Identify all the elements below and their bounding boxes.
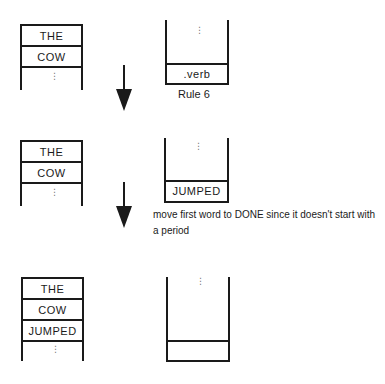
ellipsis-marker: ⋮ xyxy=(50,74,52,79)
step-note: move first word to DONE since it doesn't… xyxy=(153,207,383,239)
arrow-shaft xyxy=(123,65,125,91)
stack-cell: THE xyxy=(21,277,84,299)
stack-cell: THE xyxy=(20,140,83,162)
stack-cell: .verb xyxy=(165,63,229,85)
ellipsis-marker: ⋮ xyxy=(194,144,196,149)
done-stack-step3: THE COW JUMPED ⋮ xyxy=(21,277,84,361)
input-stack-step1: ⋮ .verb xyxy=(165,20,229,85)
ellipsis-marker: ⋮ xyxy=(50,190,52,195)
arrow-head xyxy=(116,89,132,111)
ellipsis-marker: ⋮ xyxy=(196,279,198,284)
arrow-head xyxy=(116,206,132,228)
stack-cell-empty xyxy=(166,340,230,362)
down-arrow-icon xyxy=(116,182,132,228)
stack-cell: COW xyxy=(20,45,83,67)
input-stack-step2: ⋮ JUMPED xyxy=(164,138,229,203)
rule-caption: Rule 6 xyxy=(178,88,210,100)
arrow-shaft xyxy=(123,182,125,208)
stack-cell: JUMPED xyxy=(21,319,84,341)
down-arrow-icon xyxy=(116,65,132,111)
done-stack-step2: THE COW ⋮ xyxy=(20,140,83,206)
ellipsis-marker: ⋮ xyxy=(195,28,197,33)
done-stack-step1: THE COW ⋮ xyxy=(20,24,83,90)
ellipsis-marker: ⋮ xyxy=(51,347,53,352)
stack-cell: COW xyxy=(20,161,83,183)
input-stack-step3: ⋮ xyxy=(166,277,230,362)
stack-cell: COW xyxy=(21,298,84,320)
stack-cell: JUMPED xyxy=(164,180,229,203)
stack-cell: THE xyxy=(20,24,83,46)
